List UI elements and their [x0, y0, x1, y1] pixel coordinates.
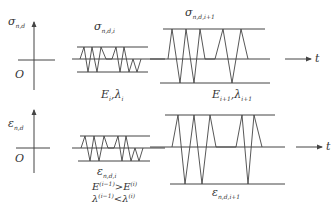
modulus-relation: E(i−1)>E(i) — [91, 180, 138, 192]
cyclic-signal-large — [168, 29, 248, 83]
time-label: t — [326, 140, 331, 153]
strain-block-label-i1: εn,d,i+1 — [212, 186, 240, 200]
bottom-panel: εn,d O εn,d,i E(i−1)>E(i) λ(i−1)<λ(i) εn… — [8, 110, 331, 204]
wavelength-relation: λ(i−1)<λ(i) — [91, 192, 136, 204]
strain-block-label-i: εn,d,i — [97, 165, 116, 179]
cyclic-signal-large — [172, 115, 262, 184]
diagram-canvas: σn,d O σn,d,i Ei,λi σn,d,i+1 Ei+1,λi+1 t… — [0, 0, 334, 213]
stress-block-label-i1: σn,d,i+1 — [185, 6, 215, 20]
stress-block-label-i: σn,d,i — [94, 20, 115, 34]
strain-axis-label: εn,d — [8, 117, 24, 131]
origin-label: O — [15, 68, 24, 81]
stress-strain-diagram: σn,d O σn,d,i Ei,λi σn,d,i+1 Ei+1,λi+1 t… — [0, 0, 334, 213]
stress-axis-label: σn,d — [8, 15, 25, 29]
material-params-i: Ei,λi — [100, 88, 123, 102]
origin-label: O — [15, 152, 24, 165]
time-label: t — [315, 52, 320, 65]
material-params-i1: Ei+1,λi+1 — [211, 88, 252, 102]
top-panel: σn,d O σn,d,i Ei,λi σn,d,i+1 Ei+1,λi+1 t — [8, 6, 320, 102]
